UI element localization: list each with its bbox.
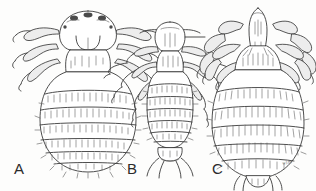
- specimen-label-c: C: [212, 161, 223, 176]
- specimen-label-a: A: [14, 161, 24, 176]
- illustration-plate: .o{fill:none;stroke:#3a3a3a;stroke-width…: [0, 0, 316, 191]
- louse-plate-svg: .o{fill:none;stroke:#3a3a3a;stroke-width…: [0, 0, 316, 191]
- specimen-label-b: B: [127, 161, 137, 176]
